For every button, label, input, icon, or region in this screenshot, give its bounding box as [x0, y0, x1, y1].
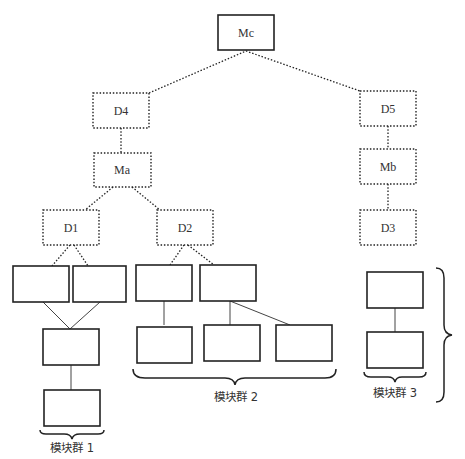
module-group-3: 模块群 3: [364, 272, 426, 400]
node-d3: D3: [360, 210, 416, 245]
node-d1-label: D1: [64, 221, 79, 235]
module-box: [13, 266, 69, 302]
module-box: [204, 325, 260, 361]
node-mc-label: Mc: [238, 26, 254, 40]
node-d3-label: D3: [381, 221, 396, 235]
node-d4-label: D4: [114, 104, 129, 118]
group-2-label: 模块群 2: [214, 390, 258, 404]
group-3-label: 模块群 3: [373, 386, 417, 400]
node-d4: D4: [93, 93, 149, 128]
node-d5: D5: [360, 91, 416, 126]
module-group-2: 模块群 2: [133, 265, 336, 404]
node-d2-label: D2: [178, 221, 193, 235]
group-1-label: 模块群 1: [50, 441, 94, 455]
module-group-1: 模块群 1: [13, 266, 126, 455]
module-box: [367, 332, 423, 368]
group-3-brace: [364, 372, 426, 382]
group-1-brace: [40, 430, 104, 439]
node-ma-label: Ma: [114, 163, 131, 177]
node-mb-label: Mb: [380, 160, 397, 174]
node-mb: Mb: [360, 149, 416, 184]
module-box: [43, 329, 99, 365]
node-mc: Mc: [218, 15, 274, 50]
module-box: [200, 265, 256, 301]
module-hierarchy-diagram: Mc D4 D5 Ma Mb D1 D2 D3 模块群 1: [0, 0, 465, 459]
module-box: [136, 265, 192, 301]
node-ma: Ma: [94, 153, 151, 187]
overall-right-brace: [436, 268, 452, 402]
module-box: [44, 390, 100, 426]
node-d2: D2: [157, 210, 213, 245]
node-d5-label: D5: [381, 102, 396, 116]
group-2-brace: [133, 369, 336, 385]
module-box: [137, 327, 192, 363]
module-box: [276, 325, 332, 361]
module-box: [73, 266, 126, 302]
module-box: [367, 272, 423, 308]
node-d1: D1: [43, 210, 99, 245]
